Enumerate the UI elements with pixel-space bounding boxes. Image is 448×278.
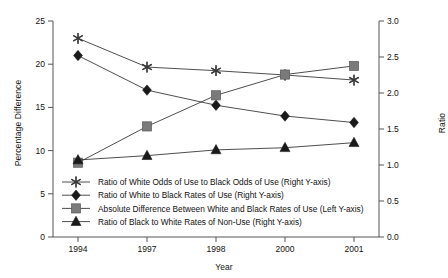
y-axis-right-tick-label: 1.0	[387, 160, 399, 170]
marker-triangle	[142, 150, 152, 159]
legend-label: Absolute Difference Between White and Bl…	[98, 204, 364, 214]
legend-item-3: Ratio of Black to White Rates of Non-Use…	[62, 216, 302, 227]
legend-item-1: Ratio of White to Black Rates of Use (Ri…	[62, 190, 284, 200]
x-axis-tick-label: 2001	[345, 244, 364, 254]
marker-diamond	[212, 100, 221, 110]
marker-square	[349, 61, 358, 70]
marker-triangle	[280, 142, 290, 151]
legend-label: Ratio of White Odds of Use to Black Odds…	[98, 177, 331, 187]
marker-diamond	[74, 50, 83, 60]
x-axis-tick-label: 1998	[207, 244, 226, 254]
series-2-point	[142, 122, 151, 131]
y-axis-right-tick-label: 2.5	[387, 52, 399, 62]
series-3-point	[280, 142, 290, 151]
series-3-point	[349, 137, 359, 146]
marker-diamond	[350, 117, 359, 127]
x-axis-tick-label: 1994	[69, 244, 88, 254]
y-axis-right-tick-label: 0.0	[387, 232, 399, 242]
x-axis-tick-label: 2000	[276, 244, 295, 254]
marker-diamond	[72, 190, 81, 200]
y-axis-right-title: Ratio	[437, 63, 447, 183]
marker-square	[280, 70, 289, 79]
y-axis-left-tick-label: 10	[36, 146, 46, 156]
y-axis-right-tick-label: 1.5	[387, 124, 399, 134]
marker-square	[142, 122, 151, 131]
series-2-point	[280, 70, 289, 79]
series-0-point	[73, 33, 82, 44]
marker-triangle	[211, 144, 221, 153]
series-1-point	[212, 100, 221, 110]
y-axis-left-tick-label: 15	[36, 102, 46, 112]
y-axis-left-tick-label: 25	[36, 16, 46, 26]
series-1-point	[350, 117, 359, 127]
y-axis-left-tick-label: 5	[40, 189, 45, 199]
chart-figure: 05101520250.00.51.01.52.02.53.0199419971…	[0, 0, 448, 278]
x-axis-tick-label: 1997	[138, 244, 157, 254]
series-2-point	[211, 91, 220, 100]
marker-triangle	[349, 137, 359, 146]
series-1-point	[74, 50, 83, 60]
series-3-point	[142, 150, 152, 159]
marker-square	[211, 91, 220, 100]
marker-diamond	[281, 111, 290, 121]
y-axis-right-tick-label: 0.5	[387, 196, 399, 206]
x-axis-title: Year	[0, 262, 448, 272]
y-axis-left-tick-label: 20	[36, 59, 46, 69]
y-axis-left-title: Percentage Difference	[13, 63, 23, 183]
chart-canvas: 05101520250.00.51.01.52.02.53.0199419971…	[0, 0, 448, 278]
marker-triangle	[71, 216, 81, 225]
legend-label: Ratio of White to Black Rates of Use (Ri…	[98, 190, 284, 200]
marker-diamond	[143, 85, 152, 95]
series-2-point	[349, 61, 358, 70]
y-axis-right-tick-label: 2.0	[387, 88, 399, 98]
legend-marker	[72, 190, 81, 200]
legend-marker	[71, 216, 81, 225]
series-1-point	[143, 85, 152, 95]
legend-marker	[71, 204, 80, 213]
y-axis-right-tick-label: 3.0	[387, 16, 399, 26]
y-axis-left-tick-label: 0	[40, 232, 45, 242]
legend-label: Ratio of Black to White Rates of Non-Use…	[98, 217, 302, 227]
series-3-point	[211, 144, 221, 153]
legend-item-2: Absolute Difference Between White and Bl…	[62, 204, 364, 214]
marker-square	[71, 204, 80, 213]
legend-item-0: Ratio of White Odds of Use to Black Odds…	[62, 177, 331, 188]
series-1-point	[281, 111, 290, 121]
